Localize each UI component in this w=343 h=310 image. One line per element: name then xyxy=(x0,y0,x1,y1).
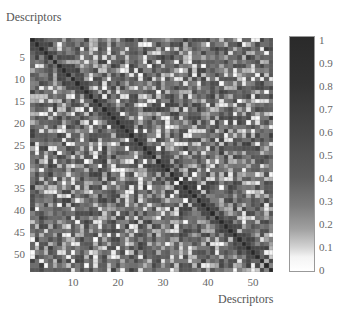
x-tick: 40 xyxy=(203,276,214,288)
colorbar-tick: 0.1 xyxy=(319,242,333,253)
y-tick: 45 xyxy=(14,227,25,238)
colorbar-tick: 0 xyxy=(319,265,325,276)
colorbar-tick: 0.5 xyxy=(319,150,333,161)
y-axis-title: Descriptors xyxy=(6,10,61,25)
colorbar-tick: 0.7 xyxy=(319,104,333,115)
x-tick: 10 xyxy=(68,276,79,288)
y-tick: 25 xyxy=(14,140,25,151)
colorbar-tick: 0.9 xyxy=(319,58,333,69)
colorbar-tick: 0.3 xyxy=(319,196,333,207)
colorbar xyxy=(289,36,315,272)
y-tick: 35 xyxy=(14,183,25,194)
colorbar-tick: 0.6 xyxy=(319,127,333,138)
y-tick: 50 xyxy=(14,249,25,260)
y-tick: 10 xyxy=(14,74,25,85)
colorbar-tick: 0.8 xyxy=(319,81,333,92)
y-tick: 15 xyxy=(14,96,25,107)
x-axis-title: Descriptors xyxy=(218,292,273,307)
y-tick: 20 xyxy=(14,118,25,129)
x-tick: 50 xyxy=(248,276,259,288)
x-tick: 20 xyxy=(113,276,124,288)
heatmap-cell xyxy=(269,268,274,272)
colorbar-tick: 0.4 xyxy=(319,173,333,184)
y-tick: 40 xyxy=(14,205,25,216)
colorbar-tick: 1 xyxy=(319,35,325,46)
y-tick: 5 xyxy=(20,52,26,63)
x-tick: 30 xyxy=(158,276,169,288)
colorbar-tick: 0.2 xyxy=(319,219,333,230)
y-tick: 30 xyxy=(14,161,25,172)
correlation-heatmap xyxy=(30,38,273,272)
